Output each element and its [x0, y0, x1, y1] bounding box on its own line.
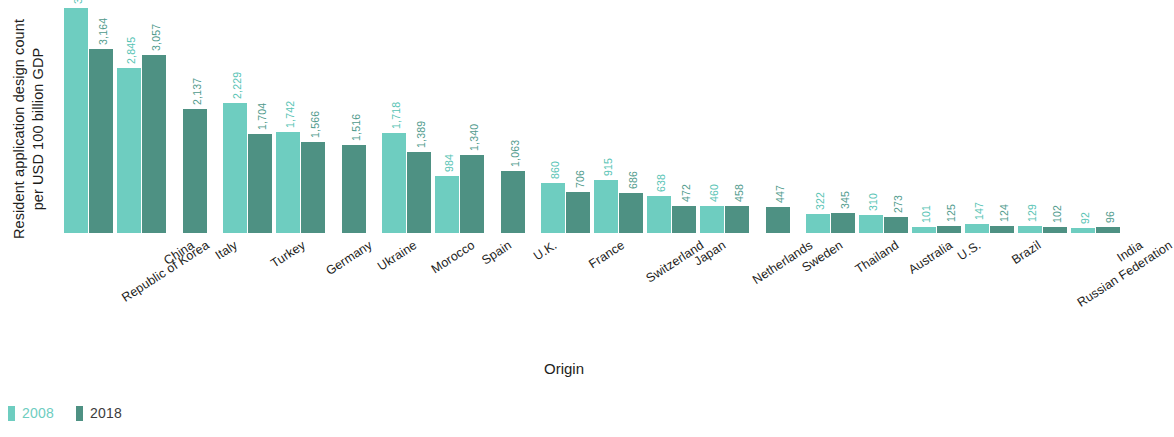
bar-group-bars: 860706 — [541, 8, 590, 233]
bar[interactable]: 345 — [831, 213, 855, 233]
bar-value-label: 706 — [574, 170, 586, 188]
bar-group-bars: 9296 — [1071, 8, 1120, 233]
x-tick-label: U.S. — [954, 238, 982, 263]
bar-group-bars: 447 — [766, 8, 790, 233]
bar[interactable]: 147 — [965, 224, 989, 233]
chart-legend: 2008 2018 — [8, 405, 122, 421]
bar[interactable]: 101 — [912, 227, 936, 233]
bar-value-label: 129 — [1026, 203, 1038, 221]
legend-swatch-2008 — [8, 406, 15, 421]
bar[interactable]: 310 — [859, 215, 883, 233]
bar[interactable]: 1,516 — [342, 145, 366, 233]
plot-area: 3,8703,1642,8453,0572,1372,2291,7041,742… — [62, 8, 1122, 233]
bar-value-label: 1,742 — [284, 100, 296, 127]
y-axis-title: Resident application design count per US… — [10, 4, 48, 254]
x-tick-label: France — [586, 238, 627, 271]
bar[interactable]: 3,057 — [142, 55, 166, 233]
bar[interactable]: 860 — [541, 183, 565, 233]
bar[interactable]: 3,870 — [64, 8, 88, 233]
bar[interactable]: 1,742 — [276, 132, 300, 233]
bar-group-bars: 2,2291,704 — [223, 8, 272, 233]
bar[interactable]: 1,340 — [460, 155, 484, 233]
bar-value-label: 124 — [998, 204, 1010, 222]
x-tick-label: Italy — [212, 238, 239, 263]
bar-group-bars: 2,137 — [183, 8, 207, 233]
bar-group-bars: 638472 — [647, 8, 696, 233]
bar-value-label: 147 — [973, 202, 985, 220]
x-tick-label: Morocco — [428, 238, 476, 276]
bar[interactable]: 2,845 — [117, 68, 141, 233]
bar[interactable]: 1,718 — [382, 133, 406, 233]
x-axis-baseline — [62, 232, 1122, 233]
bar-value-label: 458 — [733, 184, 745, 202]
bar-value-label: 1,718 — [390, 102, 402, 129]
bar-value-label: 860 — [549, 161, 561, 179]
bar-group-bars: 460458 — [700, 8, 749, 233]
x-tick-label: Ukraine — [375, 238, 419, 274]
x-tick-label: Thailand — [852, 238, 901, 276]
bar[interactable]: 447 — [766, 207, 790, 233]
bar-group-bars: 147124 — [965, 8, 1014, 233]
bar[interactable]: 638 — [647, 196, 671, 233]
bar[interactable]: 92 — [1071, 228, 1095, 233]
bar-group-bars: 1,7421,566 — [276, 8, 325, 233]
bar-group-bars: 1,516 — [342, 8, 366, 233]
bar-value-label: 2,229 — [231, 72, 243, 99]
bar-value-label: 2,137 — [191, 77, 203, 104]
bar[interactable]: 273 — [884, 217, 908, 233]
bar[interactable]: 460 — [700, 206, 724, 233]
bar-value-label: 915 — [602, 158, 614, 176]
bar[interactable]: 1,063 — [501, 171, 525, 233]
bar-value-label: 2,845 — [125, 36, 137, 63]
bar-group-bars: 2,8453,057 — [117, 8, 166, 233]
bar-group-bars: 915686 — [594, 8, 643, 233]
bar-value-label: 310 — [867, 193, 879, 211]
x-tick-label: Australia — [905, 238, 954, 277]
bar-value-label: 101 — [920, 205, 932, 223]
bar-value-label: 3,870 — [72, 0, 84, 4]
bar[interactable]: 1,389 — [407, 152, 431, 233]
bar[interactable]: 1,704 — [248, 134, 272, 233]
bar[interactable]: 96 — [1096, 227, 1120, 233]
bar-value-label: 273 — [892, 195, 904, 213]
bar-group-bars: 9841,340 — [435, 8, 484, 233]
legend-item-2018[interactable]: 2018 — [76, 405, 122, 421]
bar[interactable]: 124 — [990, 226, 1014, 233]
bar-group-bars: 3,8703,164 — [64, 8, 113, 233]
bar[interactable]: 472 — [672, 206, 696, 233]
bar-group-bars: 129102 — [1018, 8, 1067, 233]
bar[interactable]: 686 — [619, 193, 643, 233]
bar[interactable]: 915 — [594, 180, 618, 233]
bar[interactable]: 458 — [725, 206, 749, 233]
bar-value-label: 1,516 — [350, 114, 362, 141]
x-tick-label: Germany — [323, 238, 374, 278]
x-tick-label: U.K. — [530, 238, 558, 263]
bar[interactable]: 125 — [937, 226, 961, 233]
bar-value-label: 92 — [1079, 212, 1091, 224]
bar[interactable]: 129 — [1018, 226, 1042, 234]
bar-value-label: 345 — [839, 191, 851, 209]
bar-value-label: 1,704 — [256, 103, 268, 130]
bar[interactable]: 2,229 — [223, 103, 247, 233]
bar[interactable]: 2,137 — [183, 109, 207, 233]
bar[interactable]: 102 — [1043, 227, 1067, 233]
bar[interactable]: 1,566 — [301, 142, 325, 233]
bar-value-label: 1,340 — [468, 124, 480, 151]
bar-group-bars: 1,063 — [501, 8, 525, 233]
bar-group-bars: 1,7181,389 — [382, 8, 431, 233]
legend-label-2018: 2018 — [90, 405, 122, 421]
bar-value-label: 1,389 — [415, 121, 427, 148]
bar[interactable]: 3,164 — [89, 49, 113, 233]
x-tick-label: Republic of Korea — [119, 238, 211, 305]
x-tick-label: Turkey — [268, 238, 308, 271]
bar-value-label: 3,057 — [150, 24, 162, 51]
x-tick-label: Brazil — [1009, 238, 1043, 267]
x-axis-title: Origin — [0, 360, 1128, 377]
legend-swatch-2018 — [76, 406, 83, 421]
legend-label-2008: 2008 — [22, 405, 54, 421]
legend-item-2008[interactable]: 2008 — [8, 405, 54, 421]
bar[interactable]: 984 — [435, 176, 459, 233]
bar[interactable]: 322 — [806, 214, 830, 233]
bar[interactable]: 706 — [566, 192, 590, 233]
